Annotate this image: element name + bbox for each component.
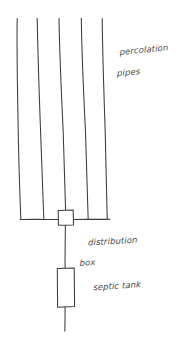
label-percolation-pipes-line1: percolation [119,42,168,57]
label-septic-tank: septic tank [82,269,141,303]
label-percolation-pipes: percolation pipes [108,32,169,99]
distribution-box-shape [58,210,73,225]
percolation-pipes-group [17,18,107,219]
percolation-pipe-5 [102,19,107,220]
percolation-pipe-4 [81,18,88,219]
septic-tank-shape [57,268,74,307]
percolation-pipe-3 [59,18,66,210]
percolation-pipe-2 [37,18,44,219]
label-distribution-box-line2: box [79,255,137,268]
label-percolation-pipes-line2: pipes [117,63,169,78]
septic-system-sketch: percolation pipes distribution box septi… [0,0,189,347]
distribution-box-group [58,210,73,225]
label-distribution-box-line1: distribution [88,235,138,248]
label-septic-tank-line1: septic tank [93,279,141,292]
percolation-pipe-1 [17,19,21,220]
septic-tank-group [57,268,74,307]
